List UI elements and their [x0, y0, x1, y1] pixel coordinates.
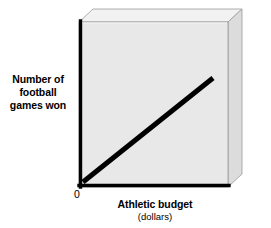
y-axis-title-line-1: Number of	[2, 73, 74, 86]
chart-canvas	[0, 0, 271, 228]
plot-area	[79, 22, 228, 187]
box-top-panel	[79, 9, 242, 22]
box-right-panel	[228, 9, 242, 187]
y-axis-title-line-2: football	[2, 86, 74, 99]
y-axis-title-line-3: games won	[2, 99, 74, 112]
x-axis-title-main: Athletic budget	[95, 198, 215, 211]
x-axis-origin-tick-label: 0	[74, 188, 80, 200]
x-axis-title: Athletic budget (dollars)	[95, 198, 215, 223]
chart-figure: Number of football games won 0 Athletic …	[0, 0, 271, 228]
x-axis-title-units: (dollars)	[95, 211, 215, 223]
y-axis-title: Number of football games won	[2, 73, 74, 112]
